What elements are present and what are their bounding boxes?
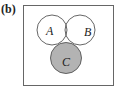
set-label-b: B bbox=[84, 25, 92, 39]
set-label-c: C bbox=[62, 55, 71, 69]
venn-diagram: A B C bbox=[0, 0, 115, 92]
set-label-a: A bbox=[45, 24, 54, 38]
